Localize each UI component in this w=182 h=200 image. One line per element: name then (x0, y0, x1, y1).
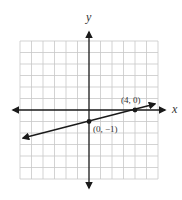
point-label-4-0: (4, 0) (121, 95, 141, 105)
x-axis-label: x (171, 102, 178, 116)
point-0-neg1 (87, 119, 92, 124)
point-4-0 (133, 108, 138, 113)
coordinate-plane: y x (0, −1) (4, 0) (0, 0, 182, 200)
y-axis-label: y (85, 10, 92, 24)
point-label-0-neg1: (0, −1) (93, 124, 118, 134)
